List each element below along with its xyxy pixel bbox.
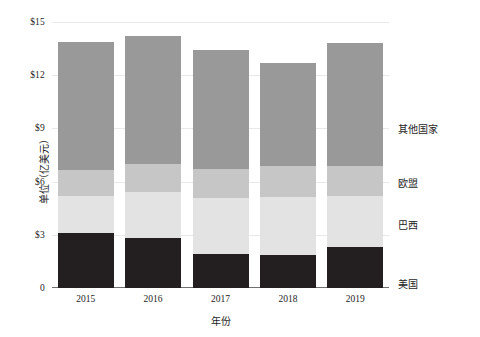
bar-segment[interactable]: [260, 197, 316, 256]
gridline: [52, 22, 389, 23]
x-tick-label: 2019: [346, 294, 365, 304]
bar-segment[interactable]: [58, 170, 114, 196]
x-tick-label: 2018: [278, 294, 297, 304]
bar-segment[interactable]: [125, 238, 181, 288]
stacked-bar[interactable]: [58, 42, 114, 288]
bar-segment[interactable]: [58, 196, 114, 233]
x-tick-label: 2017: [211, 294, 230, 304]
y-tick-label: $3: [35, 230, 45, 240]
bar-segment[interactable]: [260, 166, 316, 197]
bar-segment[interactable]: [327, 166, 383, 196]
stacked-bar[interactable]: [327, 43, 383, 288]
bar-segment[interactable]: [58, 233, 114, 288]
bar-segment[interactable]: [125, 192, 181, 238]
y-tick-label: $15: [30, 17, 45, 27]
x-axis-title: 年份: [52, 313, 389, 328]
bar-segment[interactable]: [58, 42, 114, 171]
y-tick-label: $9: [35, 123, 45, 133]
bar-segment[interactable]: [327, 43, 383, 165]
y-axis-title: 单位（亿美元）: [36, 134, 51, 204]
x-tick-label: 2015: [76, 294, 95, 304]
bar-segment[interactable]: [193, 198, 249, 255]
legend-label[interactable]: 欧盟: [398, 175, 418, 190]
bar-segment[interactable]: [260, 63, 316, 166]
plot-area: 0$3$6$9$12$15 20152016201720182019: [52, 22, 389, 288]
bar-segment[interactable]: [327, 247, 383, 288]
bar-segment[interactable]: [125, 36, 181, 164]
bar-segment[interactable]: [193, 254, 249, 288]
y-tick-label: $12: [30, 70, 45, 80]
legend-label[interactable]: 美国: [398, 276, 418, 291]
y-tick-label: 0: [40, 283, 45, 293]
legend-label[interactable]: 巴西: [398, 217, 418, 232]
y-tick-label: $6: [35, 177, 45, 187]
legend-label[interactable]: 其他国家: [398, 121, 438, 136]
stacked-bar[interactable]: [193, 50, 249, 288]
stacked-bar[interactable]: [260, 63, 316, 288]
bar-segment[interactable]: [260, 255, 316, 288]
bar-segment[interactable]: [327, 196, 383, 247]
x-tick-label: 2016: [144, 294, 163, 304]
chart-page: 单位（亿美元） 0$3$6$9$12$15 201520162017201820…: [0, 0, 480, 337]
stacked-bar[interactable]: [125, 36, 181, 288]
bar-segment[interactable]: [193, 169, 249, 197]
bar-segment[interactable]: [193, 50, 249, 169]
bar-segment[interactable]: [125, 164, 181, 192]
